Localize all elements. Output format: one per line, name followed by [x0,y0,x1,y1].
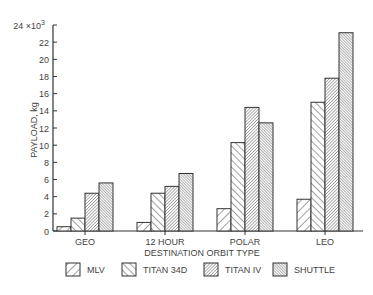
y-tick-label: 12 [39,124,49,134]
y-tick-label: 24 ×103 [13,19,45,31]
legend-swatch [273,263,287,276]
x-tick-label: LEO [316,237,334,247]
x-tick-label: 12 HOUR [145,237,185,247]
legend-label: TITAN IV [225,265,261,275]
bar [137,222,151,231]
y-tick-label: 16 [39,89,49,99]
bar [151,193,165,231]
y-tick-label: 8 [44,158,49,168]
y-tick-label: 14 [39,106,49,116]
bar [179,173,193,231]
legend: MLVTITAN 34DTITAN IVSHUTTLE [66,263,335,276]
y-tick-label: 22 [39,38,49,48]
y-tick-label: 6 [44,175,49,185]
legend-swatch [66,263,80,276]
x-tick-label: POLAR [230,237,261,247]
bar [71,218,85,231]
bar [311,102,325,231]
x-tick-label: GEO [75,237,95,247]
y-tick-label: 10 [39,141,49,151]
bar [231,143,245,231]
y-tick-label: 20 [39,55,49,65]
x-axis: GEO12 HOURPOLARLEO [53,231,363,247]
legend-item: SHUTTLE [273,263,335,276]
bar [85,193,99,231]
legend-swatch [204,263,218,276]
y-axis-title: PAYLOAD, kg [29,102,39,158]
bar [165,186,179,231]
x-axis-title: DESTINATION ORBIT TYPE [144,248,260,258]
legend-swatch [122,263,136,276]
y-tick-label: 18 [39,72,49,82]
legend-item: MLV [66,263,105,276]
bar [217,209,231,231]
bar [245,107,259,231]
y-tick-label: 4 [44,192,49,202]
legend-item: TITAN 34D [122,263,188,276]
legend-label: MLV [87,265,105,275]
legend-item: TITAN IV [204,263,261,276]
bar [325,78,339,231]
bar [259,123,273,231]
bar [99,183,113,231]
legend-label: TITAN 34D [143,265,188,275]
bar-chart: 024681012141618202224 ×103 GEO12 HOURPOL… [0,0,373,295]
bar [297,199,311,231]
bar [339,33,353,231]
y-tick-label: 0 [44,227,49,237]
y-tick-label: 2 [44,209,49,219]
bars [57,33,353,231]
bar [57,227,71,231]
legend-label: SHUTTLE [294,265,335,275]
